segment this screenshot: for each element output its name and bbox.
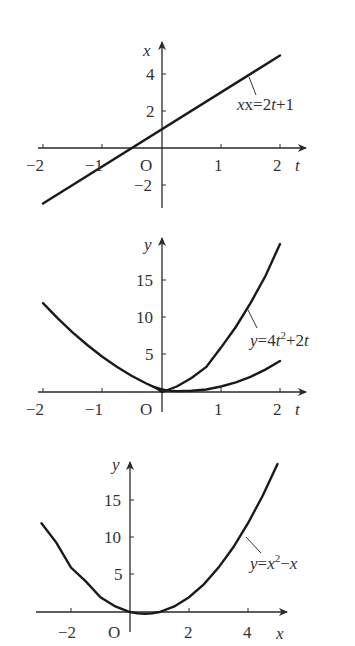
plot-linear: x t O −2 −1 1 2 4 2 −2 xx=2t+1	[26, 41, 306, 208]
svg-text:−2: −2	[134, 176, 152, 195]
x-axis-label: x	[275, 624, 284, 643]
svg-text:10: 10	[104, 528, 121, 547]
origin-label: O	[140, 156, 152, 175]
svg-text:1: 1	[214, 156, 223, 175]
svg-text:5: 5	[114, 565, 123, 584]
origin-label: O	[108, 623, 120, 642]
y-axis-label: y	[110, 455, 120, 474]
plot-parabola-t: y t O −2 −1 1 2 15 10 5 y=4t2+2t	[26, 235, 310, 419]
y-axis-label: y	[142, 235, 152, 254]
svg-text:1: 1	[214, 400, 223, 419]
equation-label: y=4t2+2t	[248, 329, 310, 350]
svg-text:4: 4	[146, 65, 155, 84]
figure-canvas: x t O −2 −1 1 2 4 2 −2 xx=2t+1 y t O −2 …	[0, 0, 355, 646]
y-axis-label: x	[142, 41, 151, 60]
x-axis-label: t	[295, 400, 301, 419]
svg-text:−2: −2	[26, 156, 44, 175]
curve-x2-minus-x	[42, 464, 278, 614]
svg-text:2: 2	[184, 623, 193, 642]
plot-parabola-x: y x O −2 2 4 15 10 5 y=x2−x	[36, 455, 298, 643]
svg-text:15: 15	[104, 491, 121, 510]
svg-text:10: 10	[136, 308, 153, 327]
x-axis-label: t	[295, 156, 301, 175]
svg-text:4: 4	[243, 623, 252, 642]
svg-text:2: 2	[273, 400, 282, 419]
svg-text:−2: −2	[58, 623, 76, 642]
svg-text:15: 15	[136, 271, 153, 290]
svg-text:5: 5	[145, 345, 154, 364]
svg-text:−1: −1	[85, 156, 103, 175]
svg-text:2: 2	[273, 156, 282, 175]
origin-label: O	[140, 400, 152, 419]
equation-label: y=x2−x	[248, 552, 298, 573]
equation-label: xx=2t+1	[236, 95, 294, 114]
svg-text:−2: −2	[26, 400, 44, 419]
svg-text:−1: −1	[85, 400, 103, 419]
svg-text:2: 2	[146, 102, 155, 121]
